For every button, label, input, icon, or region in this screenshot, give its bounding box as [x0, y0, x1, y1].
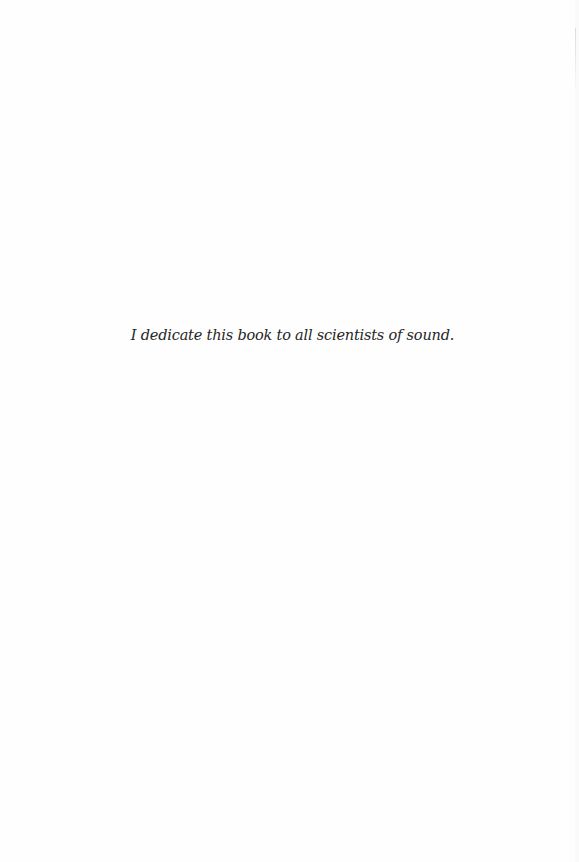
page-edge-shadow: [575, 28, 576, 88]
book-page: I dedicate this book to all scientists o…: [0, 0, 579, 862]
dedication-text: I dedicate this book to all scientists o…: [0, 327, 579, 343]
page-edge: [575, 0, 579, 862]
